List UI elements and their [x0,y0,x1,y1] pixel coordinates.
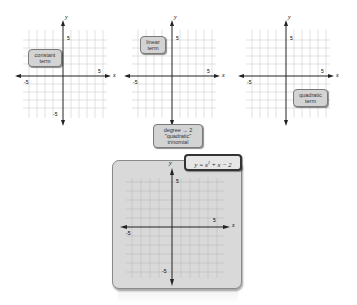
tick-label: 5 [98,68,101,74]
x-axis-label: x [232,222,235,228]
coordinate-plane-result [120,170,235,285]
degree-callout: degree → 2 "quadratic" trinomial [153,124,203,148]
tick-label: -5 [162,268,166,274]
tick-label: 5 [290,35,293,41]
x-axis-label: x [222,72,225,78]
tick-label: -5 [126,230,130,236]
y-axis-label: y [288,14,291,20]
equation-callout: y = x2 + x − 2 [184,154,242,171]
tick-label: 5 [67,35,70,41]
x-axis-label: x [336,72,339,78]
tick-label: 5 [207,68,210,74]
tick-label: 5 [321,68,324,74]
tick-label: 5 [213,217,216,223]
tick-label: -5 [247,79,251,85]
constant-term-callout: constant term [28,49,62,67]
tick-label: 5 [176,35,179,41]
panel-reflection [118,290,238,304]
tick-label: -5 [53,111,57,117]
y-axis-label: y [169,160,172,166]
y-axis-label: y [174,14,177,20]
linear-term-callout: linear term [140,36,166,54]
y-axis-label: y [65,14,68,20]
x-axis-label: x [113,72,116,78]
tick-label: -5 [24,79,28,85]
tick-label: -5 [133,79,137,85]
tick-label: 5 [176,178,179,184]
quadratic-term-callout: quadratic term [293,89,328,107]
